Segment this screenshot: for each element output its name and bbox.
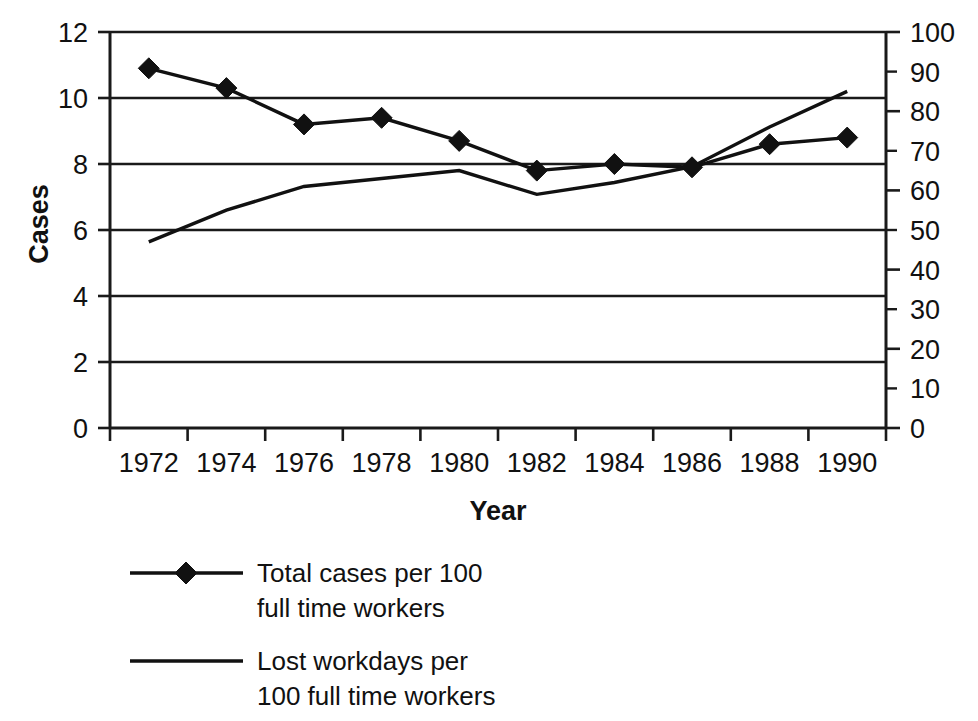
x-tick-label: 1976 [274, 448, 334, 478]
series-line-total-cases [149, 68, 847, 170]
right-tick-label: 90 [910, 58, 940, 88]
x-axis-title: Year [469, 496, 527, 526]
x-tick-label: 1974 [196, 448, 256, 478]
left-tick-label: 4 [73, 282, 88, 312]
chart-legend: Total cases per 100 full time workers Lo… [130, 558, 495, 711]
data-point-marker [371, 107, 392, 128]
series-paths [149, 68, 847, 242]
right-tick-label: 100 [910, 18, 955, 48]
legend-marker-diamond [175, 562, 197, 584]
legend-label-total-cases-line2: full time workers [257, 593, 445, 623]
data-point-marker [837, 127, 858, 148]
x-tick-label: 1978 [352, 448, 412, 478]
data-point-marker [216, 78, 237, 99]
data-point-marker [682, 157, 703, 178]
right-axis-tick-labels: 0102030405060708090100 [910, 18, 955, 444]
line-chart: 024681012 0102030405060708090100 1972197… [0, 0, 978, 721]
left-axis-ticks [98, 32, 110, 428]
right-tick-label: 0 [910, 414, 925, 444]
x-tick-label: 1984 [584, 448, 644, 478]
right-axis-ticks [886, 32, 900, 428]
legend-entry-lost-workdays: Lost workdays per 100 full time workers [130, 646, 495, 711]
left-tick-label: 6 [73, 216, 88, 246]
left-tick-label: 0 [73, 414, 88, 444]
legend-label-lost-workdays-line2: 100 full time workers [257, 681, 495, 711]
data-point-marker [138, 58, 159, 79]
right-tick-label: 80 [910, 97, 940, 127]
x-tick-label: 1982 [507, 448, 567, 478]
legend-label-total-cases-line1: Total cases per 100 [257, 558, 482, 588]
x-tick-label: 1990 [817, 448, 877, 478]
x-tick-label: 1986 [662, 448, 722, 478]
right-tick-label: 70 [910, 137, 940, 167]
x-tick-label: 1988 [740, 448, 800, 478]
legend-entry-total-cases: Total cases per 100 full time workers [130, 558, 482, 623]
legend-label-lost-workdays-line1: Lost workdays per [257, 646, 468, 676]
x-tick-label: 1980 [429, 448, 489, 478]
x-axis-ticks [110, 428, 886, 441]
right-tick-label: 60 [910, 176, 940, 206]
x-axis-tick-labels: 1972197419761978198019821984198619881990 [119, 448, 877, 478]
data-point-marker [449, 130, 470, 151]
right-tick-label: 40 [910, 256, 940, 286]
series-markers [138, 58, 857, 181]
x-tick-label: 1972 [119, 448, 179, 478]
right-tick-label: 50 [910, 216, 940, 246]
right-tick-label: 30 [910, 295, 940, 325]
left-axis-tick-labels: 024681012 [58, 18, 88, 444]
series-line-lost-workdays [149, 91, 847, 241]
right-tick-label: 10 [910, 374, 940, 404]
left-tick-label: 2 [73, 348, 88, 378]
data-point-marker [604, 154, 625, 175]
left-tick-label: 10 [58, 84, 88, 114]
data-point-marker [294, 114, 315, 135]
right-tick-label: 20 [910, 335, 940, 365]
left-tick-label: 12 [58, 18, 88, 48]
data-point-marker [759, 134, 780, 155]
chart-figure: 024681012 0102030405060708090100 1972197… [0, 0, 978, 721]
left-tick-label: 8 [73, 150, 88, 180]
y-axis-title: Cases [24, 184, 54, 264]
